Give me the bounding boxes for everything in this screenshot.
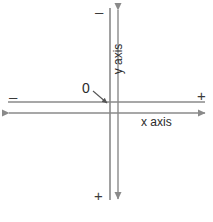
positive-sign-right: + [197,88,206,103]
axes-graphic [0,0,213,222]
origin-label: 0 [82,81,90,95]
x-axis-label: x axis [141,116,172,128]
negative-sign-top: – [95,4,103,19]
positive-sign-bottom: + [94,188,103,203]
axes-diagram: – – + + 0 x axis y axis [0,0,213,222]
y-axis-label-text: y axis [112,44,124,75]
negative-sign-left: – [9,89,17,104]
y-axis-label: y axis [111,33,125,85]
